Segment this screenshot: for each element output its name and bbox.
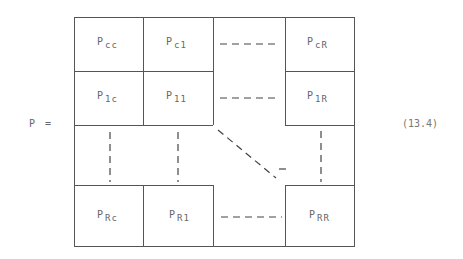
cell-subscript: 1c	[105, 94, 118, 104]
cell-P-c1: Pc1	[166, 36, 187, 47]
cell-base: P	[97, 36, 103, 47]
cell-base: P	[307, 36, 313, 47]
cell-base: P	[169, 209, 175, 220]
cell-P-1c: P1c	[97, 90, 118, 101]
cell-subscript: c1	[174, 40, 187, 50]
cell-P-cR: PcR	[307, 36, 328, 47]
block-matrix-grid	[0, 0, 463, 259]
cell-P-Rc: PRc	[97, 209, 118, 220]
cell-base: P	[166, 90, 172, 101]
cell-subscript: cc	[105, 40, 118, 50]
cell-subscript: cR	[315, 40, 328, 50]
cell-P-RR: PRR	[309, 209, 330, 220]
cell-subscript: 1R	[315, 94, 328, 104]
ddots-diagonal	[218, 130, 276, 178]
cell-base: P	[307, 90, 313, 101]
cell-base: P	[166, 36, 172, 47]
cell-P-11: P11	[166, 90, 187, 101]
cell-base: P	[309, 209, 315, 220]
cell-subscript: RR	[317, 213, 330, 223]
cell-P-cc: Pcc	[97, 36, 118, 47]
cell-subscript: 11	[174, 94, 187, 104]
cell-base: P	[97, 90, 103, 101]
cell-subscript: Rc	[105, 213, 118, 223]
cell-subscript: R1	[177, 213, 190, 223]
cell-P-1R: P1R	[307, 90, 328, 101]
cell-base: P	[97, 209, 103, 220]
cell-P-R1: PR1	[169, 209, 190, 220]
